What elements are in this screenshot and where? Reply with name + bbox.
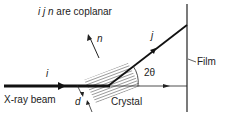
incident-label: i xyxy=(46,69,48,79)
film-leader-line xyxy=(188,59,196,62)
xray-beam-label: X-ray beam xyxy=(4,95,56,105)
coplanar-note-text: are coplanar xyxy=(54,6,112,17)
crystal-label: Crystal xyxy=(111,97,142,107)
coplanar-note-vectors: i j n xyxy=(38,6,54,17)
angle-label: 2θ xyxy=(144,68,155,78)
incident-arrow-icon xyxy=(58,82,66,90)
film-label: Film xyxy=(197,57,216,67)
transmitted-arrow-icon xyxy=(163,84,170,88)
diffracted-label: j xyxy=(151,31,153,41)
coplanar-note: i j n are coplanar xyxy=(38,7,112,17)
spacing-label: d xyxy=(75,97,81,107)
xray-diffraction-diagram xyxy=(0,0,229,130)
normal-label: n xyxy=(97,34,103,44)
spacing-arrowhead-bottom-icon xyxy=(86,100,90,105)
